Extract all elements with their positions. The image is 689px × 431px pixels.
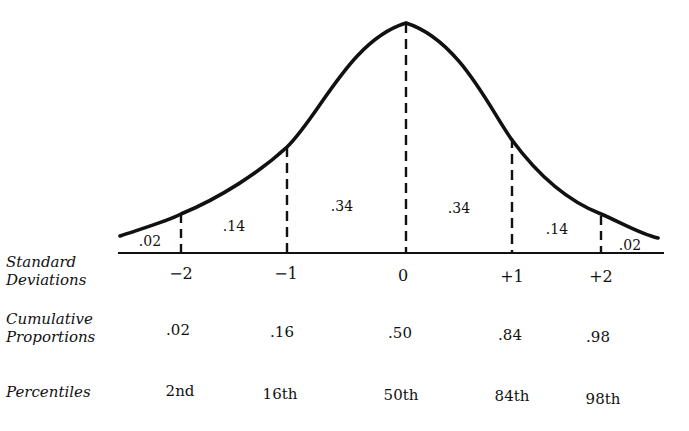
row-title-line: Proportions bbox=[6, 328, 95, 346]
area-label-below-minus-2: .02 bbox=[139, 233, 161, 249]
area-label-minus-2-to-minus-1: .14 bbox=[223, 218, 245, 234]
area-label-plus-1-to-plus-2: .14 bbox=[546, 221, 568, 237]
row-title-line: Deviations bbox=[6, 271, 86, 289]
normal-curve-diagram bbox=[0, 0, 689, 431]
percentile-value: 98th bbox=[586, 390, 621, 408]
cumulative-value: .02 bbox=[166, 321, 190, 339]
sd-tick-minus-2: −2 bbox=[169, 264, 193, 283]
cumulative-value: .98 bbox=[586, 328, 610, 346]
cumulative-value: .16 bbox=[270, 323, 294, 341]
area-label-minus-1-to-0: .34 bbox=[331, 198, 353, 214]
sd-tick-zero: 0 bbox=[398, 266, 408, 285]
cumulative-value: .50 bbox=[388, 324, 412, 342]
bell-curve bbox=[120, 23, 658, 238]
row-title-percentiles: Percentiles bbox=[6, 383, 91, 401]
percentile-value: 84th bbox=[495, 387, 530, 405]
sd-tick-plus-2: +2 bbox=[589, 267, 613, 286]
row-title-line: Cumulative bbox=[6, 310, 95, 328]
row-title-line: Standard bbox=[6, 253, 86, 271]
percentile-value: 16th bbox=[263, 385, 298, 403]
percentile-value: 2nd bbox=[166, 382, 195, 400]
area-label-above-plus-2: .02 bbox=[619, 237, 641, 253]
sd-tick-minus-1: −1 bbox=[274, 264, 298, 283]
row-title-standard-deviations: Standard Deviations bbox=[6, 253, 86, 289]
sd-tick-plus-1: +1 bbox=[500, 267, 524, 286]
cumulative-value: .84 bbox=[498, 326, 522, 344]
row-title-cumulative-proportions: Cumulative Proportions bbox=[6, 310, 95, 346]
area-label-0-to-plus-1: .34 bbox=[448, 200, 470, 216]
percentile-value: 50th bbox=[384, 386, 419, 404]
